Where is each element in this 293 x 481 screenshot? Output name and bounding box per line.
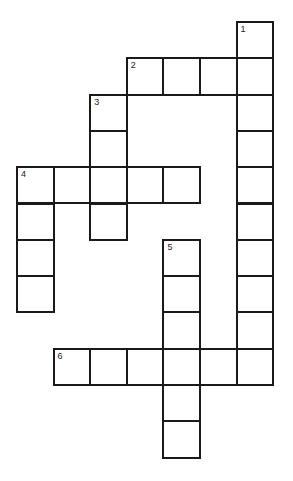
crossword-cell[interactable] [162, 420, 201, 458]
clue-number: 2 [131, 60, 136, 70]
crossword-cell[interactable] [53, 166, 92, 204]
crossword-cell[interactable] [16, 203, 55, 241]
crossword-cell[interactable] [236, 57, 275, 95]
crossword-cell[interactable]: 3 [89, 94, 128, 132]
crossword-cell[interactable] [199, 348, 238, 386]
crossword-cell[interactable] [126, 166, 165, 204]
crossword-cell[interactable] [89, 130, 128, 168]
crossword-cell[interactable] [236, 94, 275, 132]
crossword-cell[interactable]: 4 [16, 166, 55, 204]
crossword-cell[interactable]: 1 [236, 21, 275, 59]
clue-number: 5 [167, 242, 172, 252]
crossword-cell[interactable] [236, 166, 275, 204]
crossword-cell[interactable] [199, 57, 238, 95]
crossword-cell[interactable] [236, 239, 275, 277]
crossword-cell[interactable] [162, 57, 201, 95]
crossword-cell[interactable] [162, 166, 201, 204]
crossword-cell[interactable] [236, 311, 275, 349]
crossword-cell[interactable] [89, 348, 128, 386]
crossword-cell[interactable] [236, 348, 275, 386]
clue-number: 3 [94, 97, 99, 107]
clue-number: 6 [58, 351, 63, 361]
crossword-cell[interactable] [162, 348, 201, 386]
crossword-cell[interactable] [162, 311, 201, 349]
clue-number: 1 [241, 24, 246, 34]
crossword-cell[interactable]: 6 [53, 348, 92, 386]
crossword-cell[interactable] [89, 203, 128, 241]
crossword-cell[interactable] [236, 203, 275, 241]
crossword-cell[interactable] [16, 239, 55, 277]
crossword-cell[interactable]: 5 [162, 239, 201, 277]
crossword-cell[interactable] [162, 275, 201, 313]
crossword-cell[interactable]: 2 [126, 57, 165, 95]
clue-number: 4 [21, 169, 26, 179]
crossword-cell[interactable] [236, 275, 275, 313]
crossword-cell[interactable] [236, 130, 275, 168]
crossword-grid: 123456 [0, 0, 293, 481]
crossword-cell[interactable] [126, 348, 165, 386]
crossword-cell[interactable] [16, 275, 55, 313]
crossword-cell[interactable] [162, 384, 201, 422]
crossword-cell[interactable] [89, 166, 128, 204]
